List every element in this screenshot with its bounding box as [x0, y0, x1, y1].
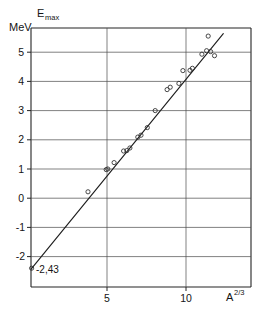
chart-figure: E max MeV A 2/3 — [0, 0, 267, 313]
x-axis-title-exponent: 2/3 — [234, 288, 244, 297]
ytick-label-1: 1 — [18, 163, 24, 175]
y-axis-unit: MeV — [9, 21, 32, 33]
ytick-label-3: 3 — [18, 104, 24, 116]
ytick-label-4: 4 — [18, 75, 24, 87]
y-axis-title-subscript: max — [45, 13, 59, 22]
data-point — [168, 85, 172, 89]
y-tick-labels: 5 4 3 2 1 0 -1 -2 — [16, 46, 25, 262]
data-point — [206, 34, 210, 38]
ytick-label-5: 5 — [18, 46, 24, 58]
x-tick-marks — [107, 287, 186, 291]
horizontal-gridlines — [31, 52, 251, 256]
y-axis-title-base: E — [37, 7, 44, 19]
intercept-annotation: -2,43 — [36, 264, 59, 275]
xtick-label-10: 10 — [180, 292, 192, 304]
data-point — [181, 69, 185, 73]
ytick-label-minus1: -1 — [16, 221, 25, 233]
data-point — [86, 190, 90, 194]
vertical-gridlines — [107, 28, 186, 287]
x-axis-title-base: A — [226, 291, 234, 303]
data-point-markers — [86, 34, 217, 194]
y-tick-marks — [27, 52, 31, 256]
ytick-label-2: 2 — [18, 133, 24, 145]
ytick-label-minus2: -2 — [16, 250, 25, 262]
data-point — [212, 54, 216, 58]
scatter-plot: E max MeV A 2/3 — [0, 0, 267, 313]
plot-frame — [31, 28, 251, 287]
data-point — [177, 81, 181, 85]
ytick-label-0: 0 — [18, 192, 24, 204]
x-tick-labels: 5 10 — [104, 292, 192, 304]
data-point — [200, 52, 204, 56]
xtick-label-5: 5 — [104, 292, 110, 304]
data-point — [112, 161, 116, 165]
